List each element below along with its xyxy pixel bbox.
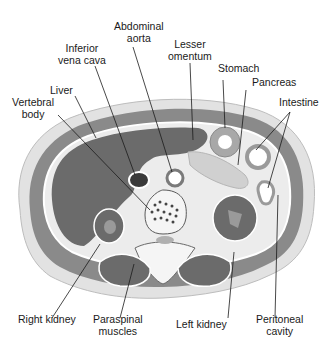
inferior-vena-cava-shape — [129, 172, 149, 188]
label-left-kidney: Left kidney — [176, 318, 227, 330]
label-abdominal-aorta-line1: Abdominal — [114, 20, 164, 32]
label-intestine: Intestine — [279, 96, 319, 108]
label-inferior-vena-cava: Inferior vena cava — [58, 42, 106, 66]
label-liver: Liver — [50, 84, 73, 96]
label-lesser-omentum: Lesser omentum — [168, 38, 212, 62]
label-vertebral-body: Vertebral body — [12, 96, 54, 120]
abdominal-aorta-shape — [167, 170, 183, 186]
spinal-canal — [156, 236, 174, 244]
right-kidney-pelvis — [104, 220, 116, 234]
label-paraspinal-line2: muscles — [93, 325, 143, 337]
label-paraspinal-muscles: Paraspinal muscles — [93, 313, 143, 337]
label-peritoneal-cavity: Peritoneal cavity — [256, 313, 303, 337]
label-pancreas: Pancreas — [252, 76, 296, 88]
abdominal-cross-section — [0, 0, 326, 341]
label-abdominal-aorta-line2: aorta — [114, 32, 164, 44]
label-ivc-line2: vena cava — [58, 54, 106, 66]
label-vertebral-body-line1: Vertebral — [12, 96, 54, 108]
intestine-loop-2 — [258, 182, 274, 204]
label-lesser-omentum-line1: Lesser — [168, 38, 212, 50]
label-vertebral-body-line2: body — [12, 108, 54, 120]
label-stomach: Stomach — [218, 62, 259, 74]
label-paraspinal-line1: Paraspinal — [93, 313, 143, 325]
label-peritoneal-line2: cavity — [256, 325, 303, 337]
label-right-kidney: Right kidney — [18, 313, 76, 325]
label-peritoneal-line1: Peritoneal — [256, 313, 303, 325]
stomach-lumen — [218, 135, 232, 149]
label-abdominal-aorta: Abdominal aorta — [114, 20, 164, 44]
label-lesser-omentum-line2: omentum — [168, 50, 212, 62]
label-ivc-line1: Inferior — [58, 42, 106, 54]
intestine-loop-1 — [247, 146, 269, 168]
